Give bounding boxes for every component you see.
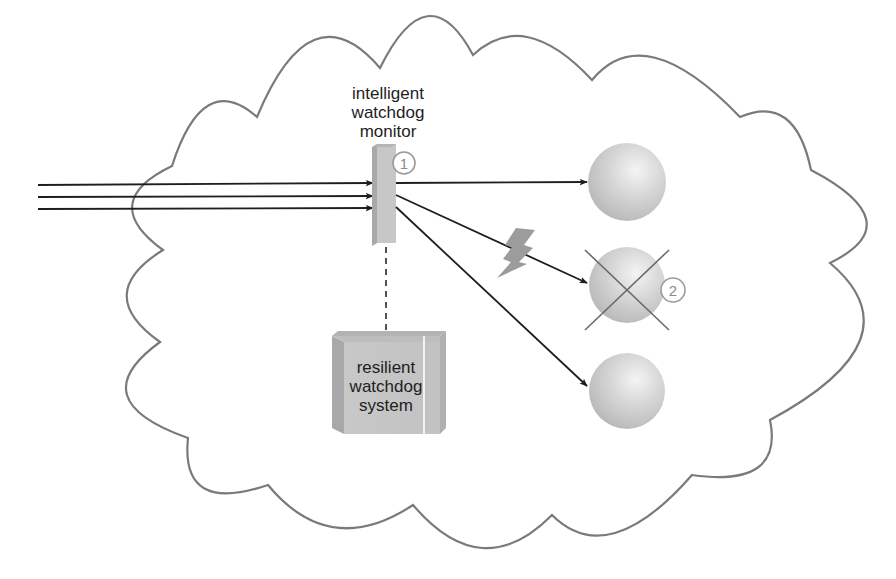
svg-text:1: 1 [400,155,408,172]
monitor-label-line-3: monitor [318,122,458,141]
arrow-to-server-top [396,182,587,183]
badge-1: 1 [393,152,415,174]
incoming-arrows [38,183,373,209]
arrow-to-server-middle [396,195,587,283]
server-bottom[interactable] [589,353,665,429]
monitor-label-line-2: watchdog [318,103,458,122]
server-top[interactable] [588,143,666,221]
badge-2: 2 [661,278,685,302]
monitor-device[interactable] [372,144,396,246]
system-label-line-2: watchdog [332,377,440,396]
resilient-system-label: resilient watchdog system [332,358,440,415]
network-cloud [126,16,867,548]
monitor-label-line-1: intelligent [318,84,458,103]
system-label-line-3: system [332,396,440,415]
server-middle-failed[interactable] [585,247,669,330]
monitor-label: intelligent watchdog monitor [318,84,458,141]
system-label-line-1: resilient [332,358,440,377]
lightning-bolt-icon [497,228,535,278]
svg-text:2: 2 [669,282,677,299]
